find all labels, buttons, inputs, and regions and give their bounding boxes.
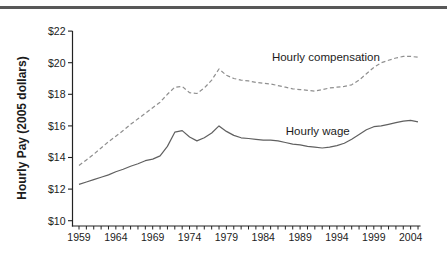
y-tick-label: $20	[48, 57, 66, 69]
series-label-hourly-compensation: Hourly compensation	[272, 51, 380, 63]
y-tick-label: $12	[48, 183, 66, 195]
y-tick-label: $14	[48, 151, 66, 163]
x-tick-label: 1979	[215, 231, 239, 243]
y-tick-label: $16	[48, 120, 66, 132]
series-hourly-wage	[79, 120, 418, 184]
y-tick-label: $18	[48, 88, 66, 100]
x-tick-label: 1999	[362, 231, 386, 243]
x-tick-label: 2004	[399, 231, 423, 243]
chart-svg: $10$12$14$16$18$20$221959196419691974197…	[0, 0, 447, 260]
x-tick-label: 1974	[178, 231, 202, 243]
x-tick-label: 1959	[67, 231, 91, 243]
x-tick-label: 1964	[104, 231, 128, 243]
y-tick-label: $22	[48, 25, 66, 37]
y-axis-title: Hourly Pay (2005 dollars)	[15, 56, 29, 199]
series-hourly-compensation	[79, 56, 418, 165]
x-tick-label: 1984	[252, 231, 276, 243]
figure: $10$12$14$16$18$20$221959196419691974197…	[0, 0, 447, 260]
x-tick-label: 1969	[141, 231, 165, 243]
x-tick-label: 1989	[288, 231, 312, 243]
hourly-pay-chart: $10$12$14$16$18$20$221959196419691974197…	[0, 0, 447, 260]
series-label-hourly-wage: Hourly wage	[286, 125, 350, 137]
y-tick-label: $10	[48, 215, 66, 227]
x-tick-label: 1994	[325, 231, 349, 243]
